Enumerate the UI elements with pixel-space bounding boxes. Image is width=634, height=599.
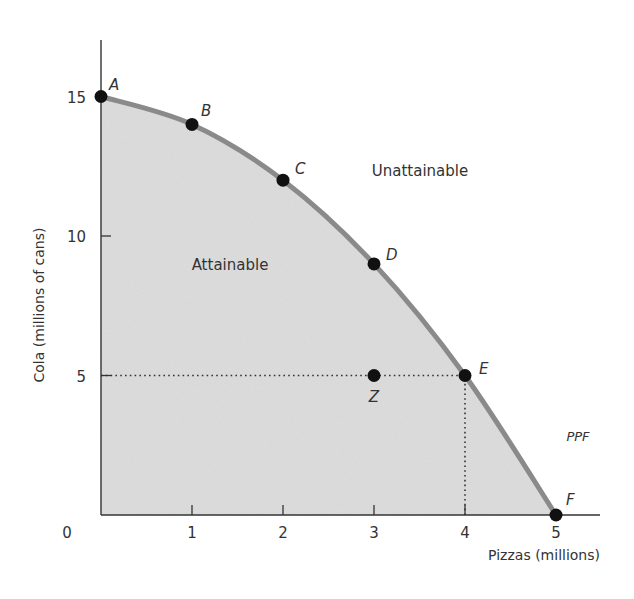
x-tick-label: 2	[278, 524, 288, 542]
attainable-region	[101, 97, 556, 516]
point-label-b: B	[201, 102, 211, 120]
plot-area: 01234551015ABCDEFZAttainableUnattainable…	[62, 40, 600, 542]
data-point-d	[368, 257, 381, 270]
point-label-a: A	[108, 76, 119, 94]
y-axis-title: Cola (millions of cans)	[31, 228, 47, 383]
data-point-a	[95, 90, 108, 103]
y-tick-label: 10	[67, 228, 86, 246]
y-tick-label: 5	[76, 368, 86, 386]
data-point-f	[550, 509, 563, 522]
data-point-b	[186, 118, 199, 131]
data-point-c	[277, 174, 290, 187]
data-point-z	[368, 369, 381, 382]
point-label-c: C	[295, 160, 306, 178]
x-tick-label: 5	[551, 524, 561, 542]
point-label-e: E	[479, 360, 489, 378]
ppf-chart: 01234551015ABCDEFZAttainableUnattainable…	[0, 0, 634, 599]
y-tick-label: 15	[67, 89, 86, 107]
x-axis-title: Pizzas (millions)	[488, 547, 600, 563]
annotation-unattainable: Unattainable	[372, 162, 468, 180]
annotation-attainable: Attainable	[192, 256, 269, 274]
x-tick-label: 0	[62, 524, 72, 542]
point-label-f: F	[566, 491, 575, 509]
x-tick-label: 4	[460, 524, 470, 542]
data-point-e	[459, 369, 472, 382]
point-label-d: D	[386, 246, 398, 264]
x-tick-label: 3	[369, 524, 379, 542]
x-tick-label: 1	[187, 524, 197, 542]
point-label-z: Z	[368, 388, 380, 406]
annotation-ppf: PPF	[566, 429, 590, 444]
